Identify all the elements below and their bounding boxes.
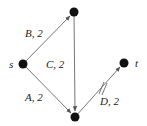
edge-c [74,12,75,111]
node-s [19,60,28,69]
node-top [70,8,79,17]
flow-network-diagram: s t B, 2 C, 2 A, 2 D, 2 [0,0,147,126]
edge-a [23,64,71,113]
node-t [120,59,129,68]
edge-b [23,16,70,64]
edge-label-b: B, 2 [25,27,43,39]
node-label-t: t [135,57,139,69]
edge-d [75,67,120,117]
node-bottom [71,113,80,122]
edge-label-d: D, 2 [99,95,119,107]
edge-label-a: A, 2 [24,91,43,103]
edge-label-c: C, 2 [46,58,65,70]
node-label-s: s [9,58,13,70]
